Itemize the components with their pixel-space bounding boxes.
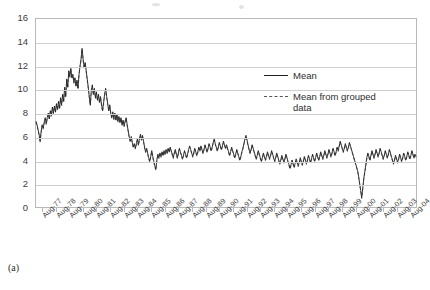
gridline	[36, 185, 416, 186]
legend-label: Mean from grouped data	[293, 91, 392, 114]
y-tick-label: 10	[0, 84, 28, 94]
legend-entry-mean-grouped: Mean from grouped data	[262, 91, 392, 114]
gridline	[36, 67, 416, 68]
y-tick-label: 6	[0, 132, 28, 142]
chart-legend: Mean Mean from grouped data	[262, 70, 392, 123]
y-tick-label: 16	[0, 13, 28, 23]
y-tick-label: 12	[0, 61, 28, 71]
figure-panel: 0246810121416 Aug-77Aug-78Aug-79Aug-80Au…	[0, 0, 430, 290]
gridline	[36, 138, 416, 139]
y-tick-label: 2	[0, 179, 28, 189]
y-tick-label: 14	[0, 37, 28, 47]
y-tick-label: 4	[0, 156, 28, 166]
scan-artifact	[152, 3, 160, 6]
scan-artifact	[239, 5, 244, 9]
legend-swatch-solid-line	[262, 70, 290, 80]
gridline	[36, 43, 416, 44]
legend-label: Mean	[293, 70, 317, 82]
y-tick-label: 8	[0, 108, 28, 118]
panel-label: (a)	[8, 262, 19, 273]
gridline	[36, 162, 416, 163]
y-tick-label: 0	[0, 203, 28, 213]
legend-entry-mean: Mean	[262, 70, 392, 82]
legend-swatch-dashed-line	[262, 91, 290, 101]
